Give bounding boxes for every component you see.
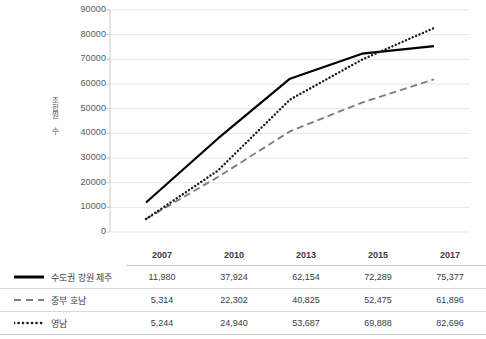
table-cell-r1-c3: 52,475 bbox=[342, 289, 414, 312]
table-corner-cell bbox=[0, 245, 126, 266]
legend-swatch-solid-icon bbox=[14, 273, 44, 281]
series-line-0 bbox=[146, 46, 434, 202]
legend-cell-1: 중부 호남 bbox=[0, 289, 126, 312]
table-cell-r1-c0: 5,314 bbox=[126, 289, 198, 312]
table-cell-r2-c1: 24,940 bbox=[198, 312, 270, 335]
table-body: 수도권 강원 제주11,98037,92462,15472,28975,377중… bbox=[0, 266, 486, 335]
table-header: 2007 2010 2013 2015 2017 bbox=[0, 245, 486, 266]
table-row: 수도권 강원 제주11,98037,92462,15472,28975,377 bbox=[0, 266, 486, 289]
table-cell-r2-c0: 5,244 bbox=[126, 312, 198, 335]
table-cell-r0-c3: 72,289 bbox=[342, 266, 414, 289]
data-table: 2007 2010 2013 2015 2017 수도권 강원 제주11,980… bbox=[0, 245, 486, 335]
table-cell-r1-c1: 22,302 bbox=[198, 289, 270, 312]
series-line-1 bbox=[146, 79, 434, 219]
table-cell-r0-c0: 11,980 bbox=[126, 266, 198, 289]
table-header-row: 2007 2010 2013 2015 2017 bbox=[0, 245, 486, 266]
data-table-wrapper: 2007 2010 2013 2015 2017 수도권 강원 제주11,980… bbox=[0, 245, 486, 339]
legend-swatch-dotted-icon bbox=[14, 319, 44, 327]
chart-page: 조합원 수 0100002000030000400005000060000700… bbox=[0, 0, 486, 339]
table-cell-r1-c2: 40,825 bbox=[270, 289, 342, 312]
line-chart: 조합원 수 0100002000030000400005000060000700… bbox=[0, 0, 486, 245]
legend-label-2: 영남 bbox=[51, 317, 67, 330]
legend-cell-0: 수도권 강원 제주 bbox=[0, 266, 126, 289]
table-cell-r0-c4: 75,377 bbox=[414, 266, 486, 289]
table-header-2010: 2010 bbox=[198, 245, 270, 266]
table-header-2015: 2015 bbox=[342, 245, 414, 266]
table-header-2007: 2007 bbox=[126, 245, 198, 266]
table-row: 중부 호남5,31422,30240,82552,47561,896 bbox=[0, 289, 486, 312]
table-header-2013: 2013 bbox=[270, 245, 342, 266]
legend-cell-2: 영남 bbox=[0, 312, 126, 335]
series-lines bbox=[146, 28, 434, 219]
series-line-2 bbox=[146, 28, 434, 219]
gridlines bbox=[106, 10, 470, 232]
table-cell-r2-c3: 69,888 bbox=[342, 312, 414, 335]
table-header-2017: 2017 bbox=[414, 245, 486, 266]
table-cell-r2-c2: 53,687 bbox=[270, 312, 342, 335]
legend-label-0: 수도권 강원 제주 bbox=[51, 271, 112, 284]
table-cell-r0-c2: 62,154 bbox=[270, 266, 342, 289]
plot-canvas bbox=[0, 0, 486, 245]
table-row: 영남5,24424,94053,68769,88882,696 bbox=[0, 312, 486, 335]
table-cell-r0-c1: 37,924 bbox=[198, 266, 270, 289]
table-cell-r2-c4: 82,696 bbox=[414, 312, 486, 335]
legend-swatch-dashed-icon bbox=[14, 296, 44, 304]
table-cell-r1-c4: 61,896 bbox=[414, 289, 486, 312]
legend-label-1: 중부 호남 bbox=[51, 294, 86, 307]
